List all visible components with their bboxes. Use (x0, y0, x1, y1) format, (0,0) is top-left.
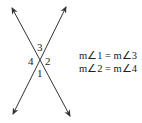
angle-label-3: 3 (37, 42, 43, 53)
equation-1: m∠1 = m∠3 (79, 49, 137, 61)
line-b (40, 7, 66, 60)
angle-label-2: 2 (45, 56, 51, 67)
angle-label-4: 4 (28, 56, 34, 67)
line-a-ext (40, 60, 70, 116)
line-a (12, 8, 40, 60)
angle-label-1: 1 (37, 68, 43, 79)
equation-2: m∠2 = m∠4 (79, 62, 137, 74)
line-b-ext (13, 60, 40, 114)
